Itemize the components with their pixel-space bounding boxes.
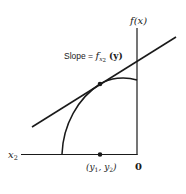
slope-label: Slope = fx2(y) — [64, 50, 123, 63]
concave-curve — [62, 78, 137, 154]
point-label: (y1, y2) — [86, 162, 117, 173]
y-axis-label: f(x) — [129, 15, 147, 26]
point-y-dot — [98, 152, 103, 157]
tangent-point-dot — [98, 82, 103, 87]
origin-label: 0 — [135, 161, 142, 172]
x-axis-label: x2 — [8, 149, 18, 162]
tangent-diagram: f(x) Slope = fx2(y) x2 0 (y1, y2) — [0, 0, 186, 194]
